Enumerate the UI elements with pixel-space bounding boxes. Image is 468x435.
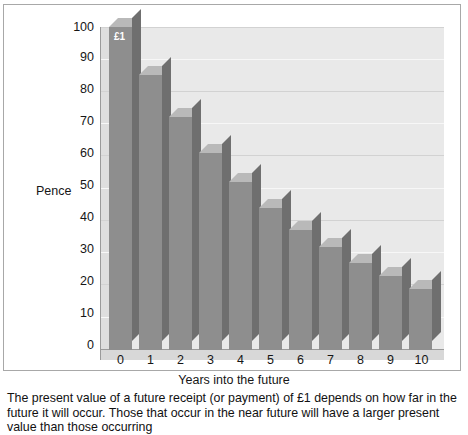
y-tick-80: 80 [80,83,94,95]
bar-side-face [432,271,441,341]
y-tick-40: 40 [80,211,94,223]
bar-year-3[interactable] [199,153,222,350]
bar-year-4[interactable] [229,182,252,350]
bar-year-2[interactable] [169,117,192,350]
bar-series: £1 [100,27,444,350]
x-tick-7: 7 [319,354,342,367]
y-tick-20: 20 [80,275,94,287]
bar-front-face [229,182,252,350]
x-tick-6: 6 [289,354,312,367]
x-tick-8: 8 [349,354,372,367]
caption-divider [3,389,461,390]
x-tick-3: 3 [199,354,222,367]
bar-year-0[interactable]: £1 [109,27,132,350]
bar-front-face [139,75,162,350]
y-tick-10: 10 [80,307,94,319]
bar-year-10[interactable] [409,289,432,350]
bar-year-1[interactable] [139,75,162,350]
x-tick-4: 4 [229,354,252,367]
x-tick-10: 10 [409,354,434,367]
bar-front-face [349,263,372,350]
x-tick-1: 1 [139,354,162,367]
bar-front-face [379,276,402,350]
x-tick-0: 0 [109,354,132,367]
x-tick-5: 5 [259,354,282,367]
bar-year-7[interactable] [319,247,342,350]
x-axis-label: Years into the future [0,373,468,387]
y-tick-60: 60 [80,147,94,159]
y-tick-70: 70 [80,115,94,127]
bar-front-face [259,208,282,350]
x-tick-9: 9 [379,354,402,367]
bar-front-face [109,27,132,350]
bar-year-6[interactable] [289,230,312,350]
chart-frame: 100 90 80 70 60 50 40 30 20 10 0 Pence [3,4,461,371]
bar-year-9[interactable] [379,276,402,350]
y-tick-30: 30 [80,243,94,255]
bar-year-8[interactable] [349,263,372,350]
y-tick-100: 100 [73,21,94,33]
bar-front-face [199,153,222,350]
bar-front-face [319,247,342,350]
bar-value-annotation: £1 [114,31,125,42]
y-tick-0: 0 [87,339,94,351]
y-tick-50: 50 [80,179,94,191]
bar-front-face [409,289,432,350]
y-axis-label: Pence [36,184,71,198]
y-tick-90: 90 [80,51,94,63]
bar-front-face [169,117,192,350]
figure-caption: The present value of a future receipt (o… [7,391,463,435]
x-axis-ticks: 0 1 2 3 4 5 6 7 8 9 10 [100,354,444,372]
plot-area: £1 [100,27,444,350]
x-tick-2: 2 [169,354,192,367]
bar-front-face [289,230,312,350]
bar-year-5[interactable] [259,208,282,350]
